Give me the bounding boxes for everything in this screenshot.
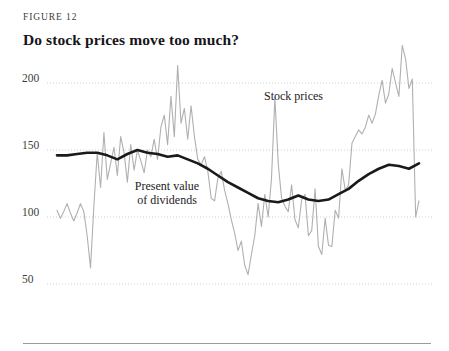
y-axis-tick-label: 150 bbox=[22, 139, 39, 151]
gridlines-group bbox=[47, 83, 432, 284]
figure-container: FIGURE 12 Do stock prices move too much?… bbox=[0, 0, 449, 351]
y-axis-tick-label: 50 bbox=[22, 273, 34, 285]
series-label-stock-prices: Stock prices bbox=[264, 90, 323, 104]
series-label-present-value: Present value of dividends bbox=[127, 180, 207, 207]
chart-plot-area bbox=[0, 0, 449, 351]
series-line-stock-prices bbox=[57, 45, 419, 274]
y-axis-tick-label: 100 bbox=[22, 206, 39, 218]
series-group bbox=[57, 45, 419, 274]
series-label-present-value-line1: Present value bbox=[127, 180, 207, 194]
y-axis-tick-label: 200 bbox=[22, 72, 39, 84]
series-label-present-value-line2: of dividends bbox=[127, 194, 207, 208]
series-line-present-value bbox=[57, 150, 419, 202]
footer-divider bbox=[23, 343, 431, 344]
